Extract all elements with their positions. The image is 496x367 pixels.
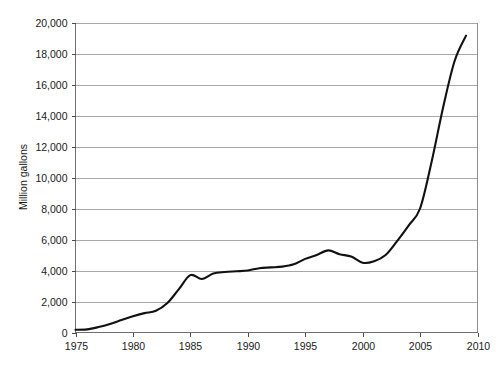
y-tick-label: 18,000: [35, 48, 67, 60]
y-tick-label: 2,000: [41, 296, 67, 308]
y-tick-label: 14,000: [35, 110, 67, 122]
chart-canvas: 02,0004,0006,0008,00010,00012,00014,0001…: [0, 0, 496, 367]
x-tick-label: 1980: [122, 340, 146, 352]
y-tick-label: 20,000: [35, 17, 67, 29]
x-tick-label: 2000: [352, 340, 376, 352]
x-tick-label: 1990: [237, 340, 261, 352]
y-axis-title: Million gallons: [17, 144, 29, 210]
line-chart-figure: 02,0004,0006,0008,00010,00012,00014,0001…: [0, 0, 496, 367]
y-axis-ticks: 02,0004,0006,0008,00010,00012,00014,0001…: [35, 17, 75, 339]
figure-caption-fragment: [8, 359, 308, 367]
y-tick-label: 6,000: [41, 234, 67, 246]
y-tick-label: 12,000: [35, 141, 67, 153]
y-tick-label: 10,000: [35, 172, 67, 184]
chart-page: 02,0004,0006,0008,00010,00012,00014,0001…: [0, 0, 496, 367]
gridlines: [76, 24, 478, 303]
x-tick-label: 1985: [179, 340, 203, 352]
y-tick-label: 16,000: [35, 79, 67, 91]
y-tick-label: 0: [62, 327, 68, 339]
x-tick-label: 1995: [294, 340, 318, 352]
x-tick-label: 1975: [65, 340, 89, 352]
x-tick-label: 2010: [467, 340, 491, 352]
x-tick-label: 2005: [409, 340, 433, 352]
plot-frame: [76, 23, 478, 333]
data-series-line: [76, 36, 467, 330]
x-axis-ticks: 19751980198519901995200020052010: [65, 333, 491, 352]
y-tick-label: 8,000: [41, 203, 67, 215]
y-tick-label: 4,000: [41, 265, 67, 277]
